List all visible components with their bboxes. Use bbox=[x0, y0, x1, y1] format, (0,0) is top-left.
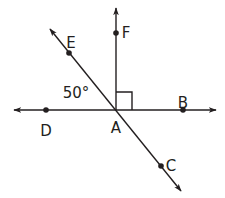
right-angle-marker bbox=[116, 92, 132, 110]
point-label-a: A bbox=[111, 119, 122, 137]
point-label-d: D bbox=[40, 122, 52, 140]
point-c bbox=[158, 163, 164, 169]
angle-measure-label: 50° bbox=[63, 84, 90, 102]
point-label-c: C bbox=[166, 157, 176, 175]
point-label-b: B bbox=[178, 94, 188, 112]
point-label-e: E bbox=[66, 34, 75, 52]
point-f bbox=[113, 30, 119, 36]
point-label-f: F bbox=[122, 24, 131, 42]
geometry-diagram: FEBDC A 50° bbox=[0, 0, 225, 198]
point-d bbox=[43, 107, 49, 113]
